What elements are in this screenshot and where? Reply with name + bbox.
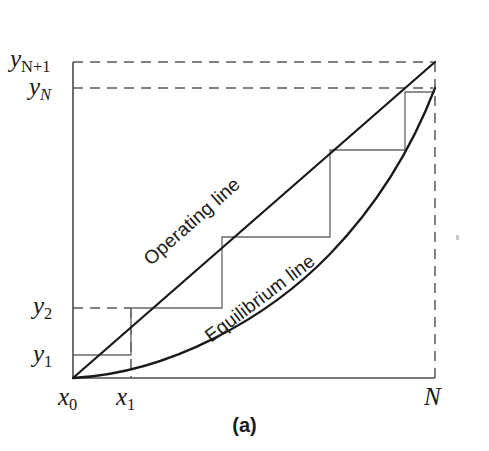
axis-label-y-n: yN	[29, 74, 51, 99]
axis-label-n: N	[424, 384, 441, 409]
axis-label-x-0: x0	[58, 384, 77, 409]
figure-caption: (a)	[0, 414, 489, 437]
equilibrium-line-curve	[73, 88, 435, 378]
axis-label-x-1: x1	[116, 384, 135, 409]
scan-artifact-speck	[456, 235, 459, 240]
operating-line-curve	[73, 62, 435, 378]
figure-container: yN+1 yN y2 y1 x0 x1 N Operating line Equ…	[0, 0, 489, 451]
axis-label-y-2: y2	[33, 293, 52, 318]
axis-label-y-1: y1	[33, 341, 52, 366]
axis-label-y-n-plus-1: yN+1	[10, 46, 51, 71]
